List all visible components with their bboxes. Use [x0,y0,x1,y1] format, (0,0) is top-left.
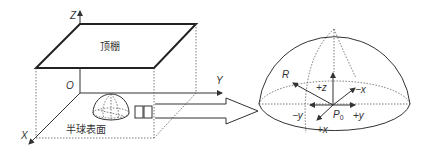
minus-y-label: −y [292,110,304,121]
x-axis-label: X [20,130,28,141]
hemisphere-surface-label: 半球表面 [66,123,106,135]
plus-y-label: +y [353,110,365,121]
vector-plus-x [317,105,333,120]
z-axis-label: Z [69,10,77,21]
sensor-box-2 [144,106,152,118]
diagram: Z O Y X 顶棚 半球表面 R +z −x −y +y +x P0 [0,0,421,156]
plus-x-label: +x [317,124,329,135]
diagram-canvas: Z O Y X 顶棚 半球表面 R +z −x −y +y +x P0 [0,0,421,156]
x-axis [29,93,80,144]
ceiling-label: 顶棚 [100,40,120,52]
minus-x-label: −x [355,84,367,95]
radius-label: R [282,69,289,80]
radius-vector [293,83,333,105]
origin-label: O [66,80,74,91]
room-scene [29,11,222,144]
center-point-label: P0 [333,109,344,121]
plus-z-label: +z [316,82,327,93]
y-axis-label: Y [216,75,224,86]
vector-minus-x [333,88,355,105]
sensor-box-1 [135,106,143,118]
small-hemisphere [93,94,129,120]
